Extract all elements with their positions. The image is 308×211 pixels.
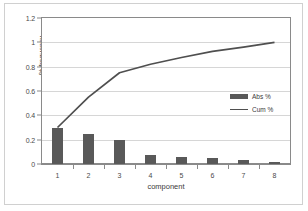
- x-tick-label: 1: [56, 172, 60, 179]
- y-tick-label: 0.6: [26, 88, 35, 95]
- y-tick-label: 0.4: [26, 112, 35, 119]
- x-tick-mark: [197, 165, 198, 169]
- x-tick-mark: [259, 165, 260, 169]
- legend-label-abs: Abs %: [252, 93, 271, 100]
- x-tick-mark: [166, 165, 167, 169]
- legend-item-abs: Abs %: [230, 90, 292, 103]
- x-tick-label: 2: [87, 172, 91, 179]
- y-tick-label: 0.8: [26, 63, 35, 70]
- x-tick-label: 5: [180, 172, 184, 179]
- y-tick-label: 1.2: [26, 15, 35, 22]
- legend-item-cum: Cum %: [230, 103, 292, 116]
- x-tick-label: 7: [242, 172, 246, 179]
- x-tick-mark: [73, 165, 74, 169]
- legend-line-swatch-icon: [230, 109, 248, 110]
- x-axis-tick-labels: 12345678: [41, 165, 291, 181]
- x-tick-label: 4: [149, 172, 153, 179]
- x-tick-mark: [104, 165, 105, 169]
- x-axis-title: component: [41, 182, 291, 191]
- x-tick-label: 6: [211, 172, 215, 179]
- y-tick-label: 0.2: [26, 136, 35, 143]
- x-tick-mark: [135, 165, 136, 169]
- y-tick-label: 0: [31, 161, 35, 168]
- x-tick-mark: [228, 165, 229, 169]
- legend-bar-swatch-icon: [230, 94, 248, 99]
- x-tick-label: 8: [273, 172, 277, 179]
- legend-label-cum: Cum %: [252, 106, 273, 113]
- chart-legend: Abs % Cum %: [230, 90, 292, 116]
- y-tick-label: 1: [31, 39, 35, 46]
- chart-frame: Pareto chart % frequency 00.20.40.60.811…: [4, 3, 303, 205]
- x-tick-label: 3: [118, 172, 122, 179]
- y-axis-tick-labels: 00.20.40.60.811.2: [5, 17, 41, 165]
